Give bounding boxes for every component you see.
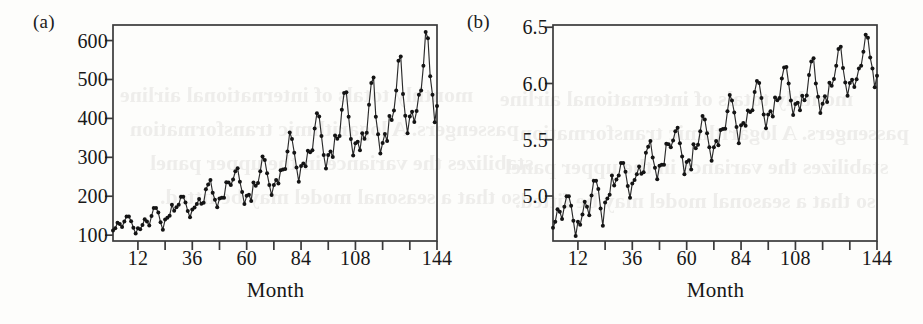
x-tick-label: 36	[604, 247, 660, 270]
y-tick-label: 5.0	[478, 185, 548, 208]
x-tick-label: 144	[849, 247, 905, 270]
panel-b-plot	[461, 0, 923, 324]
panel-a-x-axis-title: Month	[113, 278, 438, 303]
y-tick-label: 300	[38, 146, 108, 169]
x-tick-label: 12	[550, 247, 606, 270]
panel-b: (b) 5.05.56.06.5 12366084108144 Month	[461, 0, 923, 324]
x-tick-label: 144	[409, 247, 465, 270]
x-tick-label: 84	[273, 247, 329, 270]
y-tick-label: 6.5	[478, 16, 548, 39]
y-tick-label: 6.0	[478, 72, 548, 95]
y-tick-label: 5.5	[478, 128, 548, 151]
figure-two-panel-timeseries: (a) 100200300400500600 12366084108144 Mo…	[0, 0, 923, 324]
x-tick-label: 60	[219, 247, 275, 270]
panel-b-x-axis-title: Month	[553, 278, 878, 303]
panel-a: (a) 100200300400500600 12366084108144 Mo…	[0, 0, 461, 324]
x-tick-label: 108	[767, 247, 823, 270]
x-tick-label: 60	[659, 247, 715, 270]
x-tick-label: 12	[110, 247, 166, 270]
x-tick-label: 84	[713, 247, 769, 270]
y-tick-label: 400	[38, 107, 108, 130]
x-tick-label: 108	[327, 247, 383, 270]
y-tick-label: 200	[38, 185, 108, 208]
y-tick-label: 500	[38, 68, 108, 91]
x-tick-label: 36	[164, 247, 220, 270]
y-tick-label: 100	[38, 224, 108, 247]
y-tick-label: 600	[38, 29, 108, 52]
